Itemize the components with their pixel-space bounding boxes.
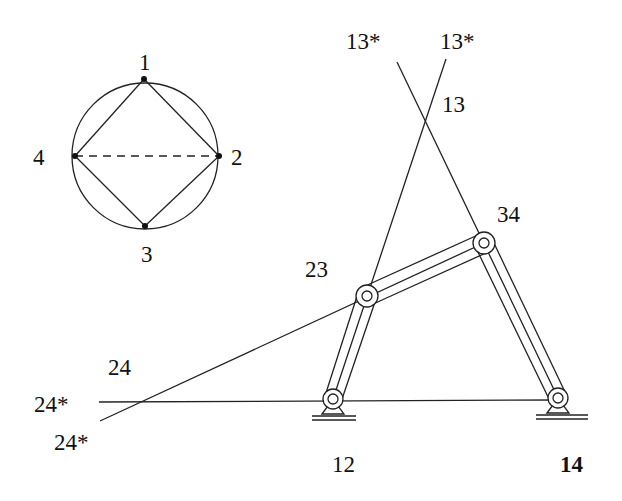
line-24-through-23-34 [100,243,484,421]
label-24-star-lower: 24* [54,430,89,455]
joint-label-14: 14 [560,452,584,477]
joint-label-12: 12 [332,452,355,477]
joint-label-23: 23 [305,257,328,282]
point-1 [141,76,147,82]
joint-23 [356,285,378,307]
label-24-star-upper: 24* [34,392,69,417]
joint-label-34: 34 [497,202,521,227]
circle-label-4: 4 [33,145,45,170]
point-3 [142,223,148,229]
ground-pivot-14 [536,388,588,419]
circle-label-2: 2 [231,145,243,170]
circle-label-1: 1 [139,50,151,75]
edge-4-1 [75,79,144,156]
point-2 [216,153,222,159]
link-4-edge-left [476,248,550,401]
instant-center-diagram: 1 2 3 4 [0,0,622,501]
point-4 [72,153,78,159]
line-13-through-34-14 [397,62,558,398]
line-13-through-23-12 [333,59,446,399]
link-2-edge-right [341,299,376,402]
joint-34 [473,232,495,254]
label-13: 13 [442,92,465,117]
label-13-star-right: 13* [440,29,475,54]
edge-2-3 [145,156,219,226]
link-3-edge-bottom [371,252,488,305]
link-3-edge-top [363,234,480,287]
link-4-edge-right [492,239,566,394]
ground-pivot-12 [312,389,356,420]
label-24: 24 [108,355,132,380]
label-13-star-left: 13* [346,29,381,54]
kennedy-circle: 1 2 3 4 [33,50,243,267]
circle-label-3: 3 [141,242,153,267]
edge-3-4 [75,156,145,226]
